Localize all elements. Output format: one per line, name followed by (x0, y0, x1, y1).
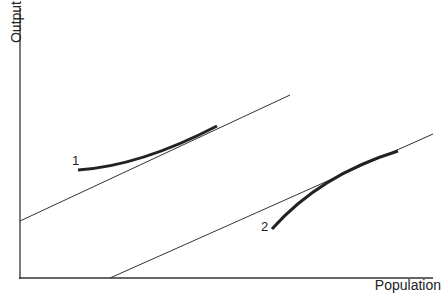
straight-line-a (20, 95, 290, 221)
y-axis-label: Output (8, 0, 24, 52)
curve-1 (78, 126, 217, 170)
x-axis-label: Population (375, 277, 441, 293)
curve-2-label: 2 (261, 219, 268, 234)
diagram-canvas (0, 0, 443, 296)
curve-2 (272, 151, 398, 229)
curve-1-label: 1 (72, 153, 79, 168)
